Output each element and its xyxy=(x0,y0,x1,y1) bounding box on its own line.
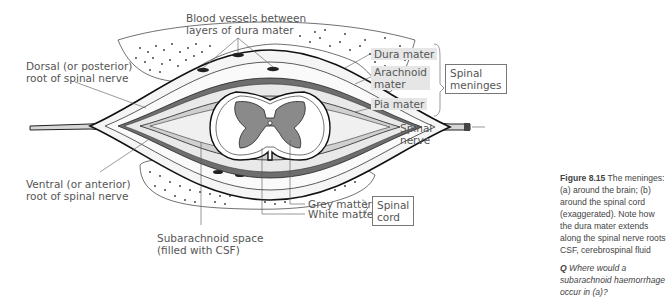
question-text: Where would a subarachnoid haemorrhage o… xyxy=(560,263,665,297)
figure-number: Figure 8.15 xyxy=(560,173,605,183)
question-marker: Q xyxy=(560,263,567,273)
caption-text: Figure 8.15 The meninges: (a) around the… xyxy=(560,172,668,256)
label-dura-mater: Dura mater xyxy=(371,48,437,60)
spinal-cord xyxy=(210,92,330,160)
figure-caption: Figure 8.15 The meninges: (a) around the… xyxy=(560,172,668,298)
label-ventral-root: Ventral (or anterior) root of spinal ner… xyxy=(26,178,131,202)
label-subarachnoid-space: Subarachnoid space (filled with CSF) xyxy=(157,232,263,256)
caption-body: The meninges: (a) around the brain; (b) … xyxy=(560,173,666,255)
label-blood-vessels: Blood vessels between layers of dura mat… xyxy=(186,12,306,36)
label-white-matter: White matter xyxy=(308,208,378,220)
caption-question: Q Where would a subarachnoid haemorrhage… xyxy=(560,262,668,298)
group-spinal-meninges: Spinal meninges xyxy=(445,64,507,94)
label-spinal-nerve: Spinal nerve xyxy=(400,122,432,146)
label-dorsal-root: Dorsal (or posterior) root of spinal ner… xyxy=(26,60,132,84)
group-spinal-cord: Spinal cord xyxy=(372,196,414,226)
label-pia-mater: Pia mater xyxy=(371,98,427,110)
label-arachnoid-mater: Arachnoid mater xyxy=(371,66,430,90)
central-canal xyxy=(268,121,272,125)
